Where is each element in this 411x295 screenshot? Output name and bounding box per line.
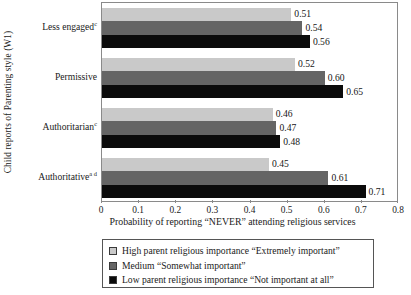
bar-authoritative-series-2 [102,185,366,199]
bar-value-label: 0.56 [313,36,330,48]
bar-value-label: 0.65 [346,86,363,98]
y-axis-title-text: Child reports of Parenting style (W1) [0,0,16,204]
bar-value-label: 0.45 [272,158,289,170]
x-tick-label: 0.6 [318,203,330,217]
category-label-authoritarian: Authoritarianc [42,120,97,134]
bar-authoritative-series-0 [102,158,269,172]
x-tick-label: 0.7 [355,203,367,217]
legend-item-1: Medium “Somewhat important” [109,259,373,273]
y-axis-title: Child reports of Parenting style (W1) [0,0,16,204]
bar-permissive-series-1 [102,71,325,85]
legend-item-label: Medium “Somewhat important” [122,259,246,273]
bar-permissive-series-0 [102,58,295,72]
plot-area: 0.510.540.560.520.600.650.460.470.480.45… [101,2,398,202]
x-tick-label: 0 [99,203,104,217]
category-label-text: Authoritarian [42,121,94,132]
x-tick-label: 0.8 [392,203,404,217]
bar-less-engaged-series-1 [102,21,302,35]
legend-swatch-icon [109,247,117,255]
x-tick-label: 0.4 [244,203,256,217]
category-axis-labels: Less engagedcPermissiveAuthoritariancAut… [16,0,100,202]
x-tick-label: 0.2 [169,203,181,217]
legend-item-label: Low parent religious importance “Not imp… [122,273,334,287]
category-label-superscript: a d [89,170,97,177]
bar-value-label: 0.54 [305,22,322,34]
legend-item-label: High parent religious importance “Extrem… [122,244,340,258]
category-label-less-engaged: Less engagedc [42,20,97,34]
legend-item-0: High parent religious importance “Extrem… [109,244,373,258]
bar-value-label: 0.51 [294,8,311,20]
category-label-text: Authoritative [38,171,89,182]
legend-swatch-icon [109,276,117,284]
bar-permissive-series-2 [102,85,343,99]
category-label-superscript: c [94,120,97,127]
bar-value-label: 0.47 [279,122,296,134]
bar-value-label: 0.52 [298,58,315,70]
x-tick-label: 0.5 [281,203,293,217]
bar-less-engaged-series-0 [102,8,291,22]
x-axis-ticks: 00.10.20.30.40.50.60.70.8 [101,203,398,217]
bar-value-label: 0.46 [276,108,293,120]
legend-item-2: Low parent religious importance “Not imp… [109,273,373,287]
bar-value-label: 0.61 [331,172,348,184]
bar-less-engaged-series-2 [102,35,310,49]
bar-authoritarian-series-0 [102,108,273,122]
legend-swatch-icon [109,262,117,270]
bar-authoritarian-series-1 [102,121,276,135]
chart-legend: High parent religious importance “Extrem… [102,239,374,288]
bar-value-label: 0.71 [369,186,386,198]
x-tick-label: 0.3 [207,203,219,217]
category-label-permissive: Permissive [55,70,97,84]
bar-authoritarian-series-2 [102,135,280,149]
category-label-superscript: c [94,20,97,27]
bars-container: 0.510.540.560.520.600.650.460.470.480.45… [102,3,397,201]
category-label-text: Less engaged [42,21,94,32]
x-tick-label: 0.1 [132,203,144,217]
category-label-text: Permissive [55,71,97,82]
x-axis-title: Probability of reporting “NEVER” attendi… [60,216,405,227]
category-label-authoritative: Authoritativea d [38,170,97,184]
bar-authoritative-series-1 [102,171,328,185]
bar-value-label: 0.48 [283,136,300,148]
bar-value-label: 0.60 [328,72,345,84]
